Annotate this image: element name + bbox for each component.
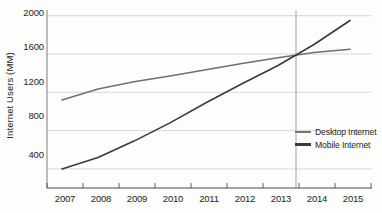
legend-item-mobile-internet[interactable]: Mobile Internet [295,138,381,151]
legend-swatch-icon [295,143,311,146]
plot-area [0,0,382,213]
x-axis-tick-label: 2008 [84,193,118,204]
x-axis-tick-label: 2014 [300,193,334,204]
x-axis-tick-label: 2007 [48,193,82,204]
line-chart: Internet Users (MM) 2000 1600 1200 800 4… [0,0,382,213]
x-axis-tick-label: 2013 [264,193,298,204]
x-axis-tick-label: 2011 [192,193,226,204]
legend-label: Mobile Internet [315,140,370,150]
legend-label: Desktop Internet [315,127,376,137]
x-axis-tick-label: 2012 [228,193,262,204]
x-axis-ticks [47,183,371,188]
legend-item-desktop-internet[interactable]: Desktop Internet [295,125,381,138]
legend-swatch-icon [295,131,311,133]
x-axis-tick-label: 2009 [120,193,154,204]
x-axis-tick-label: 2010 [156,193,190,204]
chart-legend: Desktop Internet Mobile Internet [295,125,381,151]
x-axis-tick-label: 2015 [336,193,370,204]
